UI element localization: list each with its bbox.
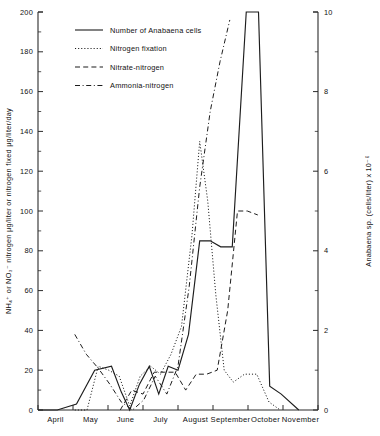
y-tick-label: 160 (20, 87, 33, 96)
x-tick-label-may: May (83, 415, 98, 424)
legend-label-nitrate-nitrogen: Nitrate-nitrogen (110, 63, 164, 72)
y-tick-label: 120 (20, 167, 33, 176)
left-axis: 020406080100120140160180200 (20, 8, 43, 415)
x-tick-label-november: November (282, 415, 320, 424)
x-tick-label-april: April (47, 415, 64, 424)
y-right-tick-label: 10 (324, 8, 333, 17)
x-tick-label-june: June (117, 415, 135, 424)
y-tick-label: 60 (24, 286, 33, 295)
figure-container: 020406080100120140160180200 0246810 Apri… (0, 0, 380, 436)
x-axis: AprilMayJuneJulyAugustSeptemberOctoberNo… (38, 405, 319, 424)
y-right-tick-label: 0 (324, 406, 328, 415)
y-right-tick-label: 6 (324, 167, 328, 176)
y-axis-title-right: Anabaena sp. (cells/liter) x 10⁻⁶ (364, 155, 373, 266)
y-tick-label: 20 (24, 366, 33, 375)
y-right-tick-label: 4 (324, 246, 328, 255)
y-axis-title-left: NH₄⁺ or NO₃⁻ nitrogen μg/liter or nitrog… (4, 108, 13, 314)
x-tick-label-september: September (211, 415, 251, 424)
legend-label-ammonia-nitrogen: Ammonia-nitrogen (110, 81, 174, 90)
y-tick-label: 200 (20, 8, 33, 17)
legend-label-number-of-anabaena-cells: Number of Anabaena cells (110, 26, 202, 35)
y-tick-label: 0 (29, 406, 33, 415)
y-tick-label: 100 (20, 207, 33, 216)
y-right-tick-label: 8 (324, 87, 328, 96)
x-tick-label-august: August (183, 415, 209, 424)
chart-legend: Number of Anabaena cellsNitrogen fixatio… (75, 26, 202, 91)
series-line-ammonia-nitrogen (75, 20, 230, 410)
chart-canvas: 020406080100120140160180200 0246810 Apri… (0, 0, 380, 436)
x-tick-label-october: October (251, 415, 280, 424)
legend-label-nitrogen-fixation: Nitrogen fixation (110, 44, 167, 53)
y-right-tick-label: 2 (324, 326, 328, 335)
y-tick-label: 180 (20, 47, 33, 56)
x-tick-label-july: July (153, 415, 168, 424)
y-tick-label: 140 (20, 127, 33, 136)
y-tick-label: 80 (24, 246, 33, 255)
caption-strip (0, 424, 380, 436)
right-axis: 0246810 (313, 8, 333, 415)
y-tick-label: 40 (24, 326, 33, 335)
series-line-nitrate-nitrogen (120, 211, 258, 410)
series-line-number-of-anabaena-cells (38, 12, 299, 410)
data-series-group (38, 12, 299, 410)
